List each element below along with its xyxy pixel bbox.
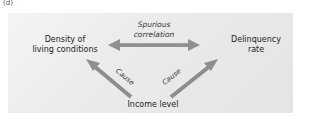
spurious-correlation-label: Spurious correlation	[123, 20, 185, 40]
node-delinquency-rate: Delinquency rate	[226, 35, 286, 55]
node-density-of-living-conditions: Density of living conditions	[20, 35, 110, 55]
spurious-line-2: correlation	[123, 30, 185, 40]
density-line-2: living conditions	[20, 45, 110, 55]
cause-arrow-right	[171, 59, 218, 97]
delinquency-line-1: Delinquency	[226, 35, 286, 45]
density-line-1: Density of	[20, 35, 110, 45]
node-income-level: Income level	[118, 100, 188, 110]
delinquency-line-2: rate	[226, 45, 286, 55]
spurious-line-1: Spurious	[123, 20, 185, 30]
spurious-correlation-arrow	[108, 39, 200, 51]
